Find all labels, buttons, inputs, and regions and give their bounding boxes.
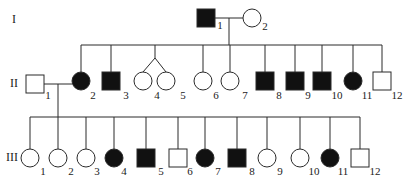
individual-number-label: 3 <box>123 89 129 101</box>
individual-number-label: 5 <box>180 89 186 101</box>
unaffected-female-symbol <box>49 149 67 167</box>
individual-number-label: 2 <box>262 20 268 32</box>
individual-number-label: 7 <box>242 89 248 101</box>
individual-number-label: 6 <box>187 165 193 177</box>
individual-number-label: 2 <box>68 165 74 177</box>
generation-label: I <box>12 12 16 27</box>
individual-number-label: 8 <box>276 89 282 101</box>
unaffected-female-symbol <box>77 149 95 167</box>
unaffected-female-symbol <box>243 9 261 27</box>
individual-number-label: 12 <box>370 165 381 177</box>
unaffected-female-symbol <box>21 149 39 167</box>
unaffected-female-symbol <box>134 72 152 90</box>
individual-number-label: 12 <box>392 89 403 101</box>
affected-female-symbol <box>196 149 214 167</box>
individual-number-label: 3 <box>94 165 100 177</box>
unaffected-male-symbol <box>373 72 391 90</box>
affected-male-symbol <box>256 72 274 90</box>
affected-female-symbol <box>321 149 339 167</box>
affected-male-symbol <box>197 9 215 27</box>
unaffected-female-symbol <box>194 72 212 90</box>
affected-male-symbol <box>228 149 246 167</box>
individual-number-label: 10 <box>332 89 343 101</box>
affected-male-symbol <box>286 72 304 90</box>
individual-number-label: 9 <box>277 165 283 177</box>
individual-number-label: 1 <box>40 165 46 177</box>
individual-number-label: 11 <box>362 89 373 101</box>
affected-female-symbol <box>72 72 90 90</box>
individual-number-label: 9 <box>305 89 311 101</box>
individual-number-label: 4 <box>121 165 127 177</box>
individual-number-label: 2 <box>90 89 96 101</box>
unaffected-female-symbol <box>157 72 175 90</box>
unaffected-male-symbol <box>169 149 187 167</box>
affected-male-symbol <box>102 72 120 90</box>
individual-number-label: 8 <box>249 165 255 177</box>
individual-number-label: 1 <box>217 19 223 31</box>
unaffected-female-symbol <box>221 72 239 90</box>
affected-female-symbol <box>344 72 362 90</box>
unaffected-male-symbol <box>351 149 369 167</box>
individual-number-label: 11 <box>338 165 349 177</box>
generation-label: III <box>6 150 18 165</box>
unaffected-female-symbol <box>291 149 309 167</box>
unaffected-female-symbol <box>258 149 276 167</box>
pedigree-chart: 12123456789101112123456789101112IIIIII <box>0 0 406 196</box>
unaffected-male-symbol <box>26 75 44 93</box>
individual-number-label: 1 <box>45 89 51 101</box>
individual-number-label: 4 <box>154 89 160 101</box>
affected-male-symbol <box>313 72 331 90</box>
affected-male-symbol <box>137 149 155 167</box>
generation-label: II <box>10 76 18 91</box>
individual-number-label: 10 <box>309 165 320 177</box>
individual-number-label: 6 <box>213 89 219 101</box>
twin-branch-line <box>143 58 155 72</box>
individual-number-label: 5 <box>158 165 164 177</box>
individual-number-label: 7 <box>215 165 221 177</box>
twin-branch-line <box>155 58 166 72</box>
